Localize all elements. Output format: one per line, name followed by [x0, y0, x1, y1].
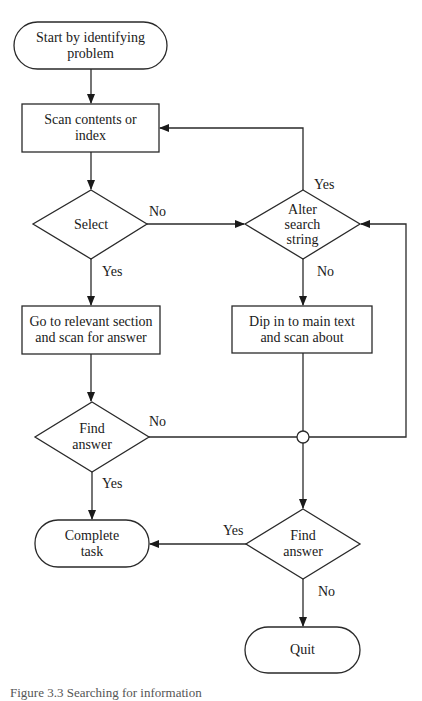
- find1-label: Find answer: [35, 402, 149, 472]
- scan-label-line-2: index: [75, 128, 106, 144]
- scan-label-line-1: Scan contents or: [44, 112, 137, 128]
- edge-label-find1-no: No: [149, 414, 166, 430]
- dip-label-line-1: Dip in to main text: [249, 314, 355, 330]
- edge-label-find2-yes: Yes: [223, 523, 243, 539]
- start-label-line-2: problem: [67, 46, 114, 62]
- complete-label-line-1: Complete: [65, 528, 119, 544]
- select-label-line-1: Select: [74, 217, 108, 233]
- alter-label-line-2: search: [285, 217, 321, 232]
- edge-label-find1-yes: Yes: [102, 476, 122, 492]
- alter-label-line-3: string: [287, 232, 319, 247]
- scan-label: Scan contents or index: [22, 104, 159, 152]
- start-label-line-1: Start by identifying: [36, 30, 145, 46]
- junction-circle: [297, 431, 309, 443]
- alter-label-line-1: Alter: [288, 202, 317, 217]
- edge-label-find2-no: No: [318, 584, 335, 600]
- complete-label-line-2: task: [81, 544, 104, 560]
- edge-label-select-yes: Yes: [102, 264, 122, 280]
- edge-label-alter-yes: Yes: [314, 177, 334, 193]
- find2-label-line-1: Find: [290, 528, 316, 544]
- find1-label-line-1: Find: [79, 421, 105, 437]
- edge-label-alter-no: No: [317, 264, 334, 280]
- quit-label: Quit: [245, 627, 360, 673]
- alter-label: Alter search string: [245, 190, 360, 259]
- quit-label-line-1: Quit: [290, 642, 315, 658]
- find2-label-line-2: answer: [283, 544, 323, 560]
- find1-label-line-2: answer: [72, 437, 112, 453]
- select-label: Select: [33, 190, 149, 259]
- goto-label: Go to relevant section and scan for answ…: [22, 306, 160, 354]
- goto-label-line-2: and scan for answer: [35, 330, 147, 346]
- edge-alter-yes-to-scan: [160, 128, 303, 190]
- edge-label-select-no: No: [149, 204, 166, 220]
- find2-label: Find answer: [246, 509, 360, 579]
- dip-label: Dip in to main text and scan about: [232, 306, 372, 353]
- figure-caption: Figure 3.3 Searching for information: [10, 685, 202, 701]
- dip-label-line-2: and scan about: [260, 330, 343, 346]
- goto-label-line-1: Go to relevant section: [29, 314, 152, 330]
- complete-label: Complete task: [35, 520, 149, 567]
- start-label: Start by identifying problem: [14, 22, 167, 69]
